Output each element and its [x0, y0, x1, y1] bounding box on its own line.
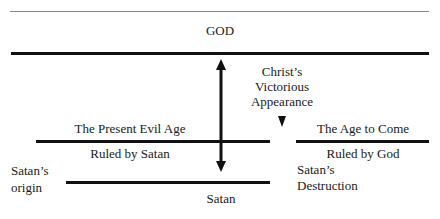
age-to-come-title: The Age to Come [308, 121, 418, 136]
present-age-title: The Present Evil Age [60, 121, 200, 136]
appearance-arrowhead-icon [278, 116, 286, 127]
up-arrowhead-icon [216, 59, 226, 70]
satan-origin-1: Satan’s [11, 163, 49, 178]
arrows [0, 0, 440, 219]
present-age-line [36, 140, 270, 143]
satan-label: Satan [191, 191, 251, 206]
present-age-ruler: Ruled by Satan [70, 146, 190, 161]
age-to-come-ruler: Ruled by God [313, 146, 413, 161]
satan-line [66, 181, 270, 184]
satan-origin-2: origin [11, 180, 42, 195]
age-to-come-line [296, 140, 429, 143]
down-arrowhead-icon [216, 161, 226, 172]
satan-destruction-2: Destruction [297, 178, 358, 193]
satan-destruction-1: Satan’s [297, 162, 335, 177]
